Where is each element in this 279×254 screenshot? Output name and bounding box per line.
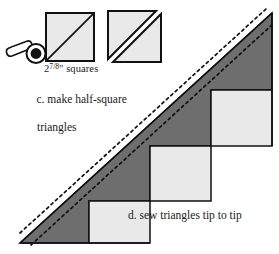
- square-size-unit: " squares: [59, 63, 98, 74]
- straight-pin-icon: [6, 41, 46, 63]
- caption-step-c-line2: triangles: [25, 120, 127, 134]
- light-triangle-2: [150, 146, 211, 201]
- caption-step-c: c. make half-square triangles: [25, 78, 127, 162]
- pin-head-inner: [31, 48, 42, 59]
- quilting-figure: 27/8" squares c. make half-square triang…: [0, 0, 279, 254]
- caption-step-c-line1: c. make half-square: [37, 93, 127, 105]
- step-c-squares: [46, 11, 161, 62]
- light-triangle-3: [211, 90, 272, 146]
- caption-step-d: d. sew triangles tip to tip: [128, 208, 242, 222]
- square-size-label: 27/8" squares: [44, 62, 98, 75]
- square-size-fraction: 7/8: [49, 62, 59, 71]
